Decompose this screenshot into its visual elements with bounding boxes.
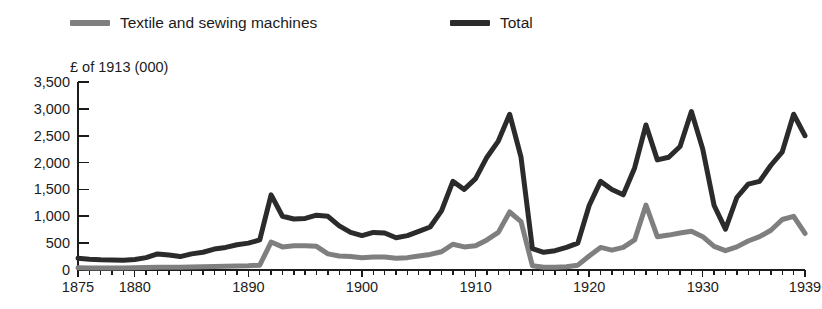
x-axis-tick-label: 1880: [119, 279, 151, 295]
x-axis-tick-label: 1890: [232, 279, 264, 295]
y-axis-tick-label: 1,000: [10, 208, 70, 224]
axes-group: [78, 82, 805, 277]
plot-area: [0, 0, 822, 309]
x-axis-tick-label: 1875: [62, 279, 94, 295]
series-line-total: [78, 112, 805, 261]
x-axis-tick-label: 1920: [573, 279, 605, 295]
y-axis-tick-label: 3,500: [10, 74, 70, 90]
y-axis-tick-label: 1,500: [10, 181, 70, 197]
y-axis-tick-label: 2,000: [10, 155, 70, 171]
x-axis-tick-label: 1900: [346, 279, 378, 295]
chart-figure: Textile and sewing machines Total £ of 1…: [0, 0, 822, 309]
x-axis-tick-label: 1939: [789, 279, 821, 295]
x-axis-tick-label: 1910: [459, 279, 491, 295]
y-axis-tick-label: 0: [10, 262, 70, 278]
series-group: [78, 112, 805, 269]
x-axis-tick-label: 1930: [687, 279, 719, 295]
y-axis-tick-label: 500: [10, 235, 70, 251]
y-axis-tick-label: 3,000: [10, 101, 70, 117]
y-axis-tick-label: 2,500: [10, 128, 70, 144]
